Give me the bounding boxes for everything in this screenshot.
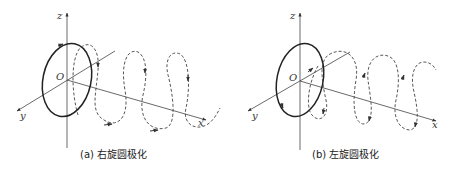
y-axis-label: y: [19, 110, 26, 121]
z-axis-label: z: [289, 10, 296, 21]
helix-arrow: [104, 124, 112, 125]
origin-label: O: [289, 72, 297, 83]
helix-arrow: [402, 75, 404, 80]
z-axis-label: z: [56, 10, 63, 21]
caption-right-hand-polarization: (a) 右旋圆极化: [80, 146, 147, 161]
panel-a: z y x O: [17, 10, 220, 148]
helix-path: [308, 51, 436, 130]
helix-arrow: [323, 108, 324, 114]
helix-arrow: [150, 130, 158, 131]
origin-label: O: [56, 71, 64, 82]
panel-b: z y x O: [248, 10, 438, 150]
helix-arrow: [415, 122, 416, 127]
polarization-figure: z y x O z: [0, 0, 449, 170]
y-axis: [248, 52, 350, 111]
caption-left-hand-polarization: (b) 左旋圆极化: [312, 146, 379, 161]
diagram-canvas: z y x O z: [0, 0, 449, 170]
helix-arrow: [369, 116, 370, 121]
y-axis-label: y: [251, 110, 258, 121]
y-axis: [17, 51, 115, 111]
x-axis-label: x: [432, 119, 438, 130]
helix-arrow: [308, 68, 313, 72]
helix-arrow: [363, 73, 365, 78]
